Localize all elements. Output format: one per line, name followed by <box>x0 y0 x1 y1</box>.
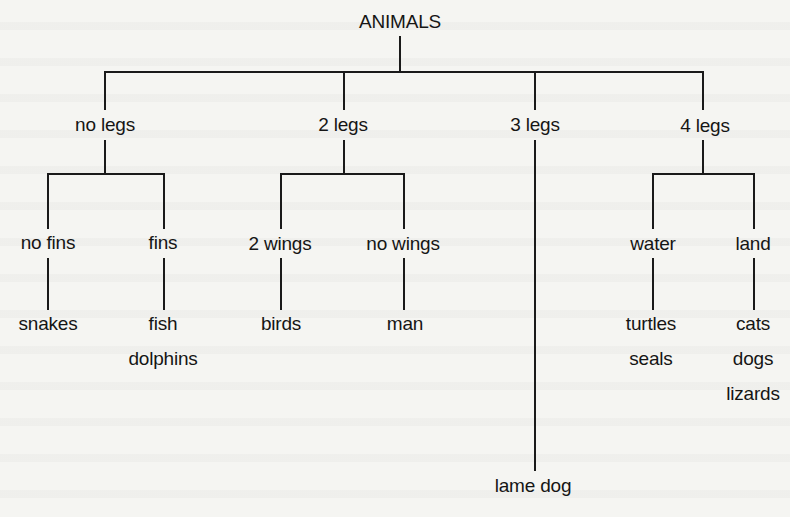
leaf-birds: birds <box>261 313 301 348</box>
root-node-animals: ANIMALS <box>359 11 441 33</box>
leaves-fins: fish dolphins <box>128 313 197 383</box>
leaf-turtles: turtles <box>626 313 676 348</box>
no-legs-stem-line <box>104 140 106 175</box>
leaves-no-wings: man <box>387 313 423 348</box>
leaf-lame-dog: lame dog <box>495 475 572 510</box>
leaf-dogs: dogs <box>733 348 773 383</box>
leaf-lizards: lizards <box>726 383 780 418</box>
leaf-dolphins: dolphins <box>128 348 197 383</box>
water-drop-line <box>652 173 654 229</box>
no-legs-branch-bar <box>47 173 165 175</box>
node-fins: fins <box>149 232 178 254</box>
four-legs-branch-bar <box>652 173 755 175</box>
leaf-cats: cats <box>736 313 770 348</box>
leaf-snakes: snakes <box>18 313 77 348</box>
root-stem-line <box>399 36 401 73</box>
node-2-legs: 2 legs <box>318 114 368 136</box>
node-4-legs: 4 legs <box>680 115 730 137</box>
no-legs-drop-line <box>104 71 106 110</box>
two-wings-leaf-line <box>280 258 282 310</box>
no-fins-drop-line <box>47 173 49 229</box>
node-no-wings: no wings <box>366 233 439 255</box>
node-2-wings: 2 wings <box>248 233 311 255</box>
node-3-legs: 3 legs <box>510 114 560 136</box>
land-drop-line <box>753 173 755 229</box>
two-legs-branch-bar <box>280 173 405 175</box>
leaf-man: man <box>387 313 423 348</box>
fins-drop-line <box>163 173 165 229</box>
no-wings-drop-line <box>403 173 405 229</box>
leaves-no-fins: snakes <box>18 313 77 348</box>
two-wings-drop-line <box>280 173 282 229</box>
node-no-legs: no legs <box>75 114 135 136</box>
fins-leaf-line <box>163 258 165 310</box>
water-leaf-line <box>652 258 654 310</box>
two-legs-stem-line <box>343 140 345 175</box>
four-legs-drop-line <box>702 71 704 110</box>
no-fins-leaf-line <box>47 258 49 310</box>
three-legs-drop-line <box>534 71 536 110</box>
node-land: land <box>735 233 770 255</box>
leaves-3-legs: lame dog <box>495 475 572 510</box>
no-wings-leaf-line <box>403 258 405 310</box>
three-legs-long-line <box>534 140 536 471</box>
leaves-water: turtles seals <box>626 313 676 383</box>
level1-connector-bar <box>104 71 704 73</box>
leaf-fish: fish <box>149 313 178 348</box>
leaf-seals: seals <box>629 348 672 383</box>
node-water: water <box>630 233 675 255</box>
diagram-page: ANIMALS no legs 2 legs 3 legs 4 legs no … <box>0 0 790 517</box>
two-legs-drop-line <box>343 71 345 110</box>
leaves-land: cats dogs lizards <box>726 313 780 418</box>
four-legs-stem-line <box>702 140 704 175</box>
node-no-fins: no fins <box>21 232 76 254</box>
land-leaf-line <box>753 258 755 310</box>
leaves-2-wings: birds <box>261 313 301 348</box>
